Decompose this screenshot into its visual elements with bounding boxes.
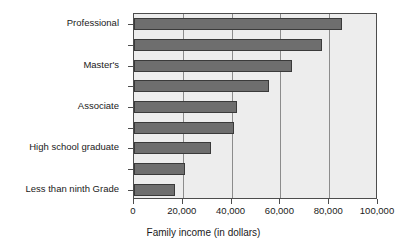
x-axis-tick <box>133 199 134 204</box>
x-axis-tick-label: 0 <box>130 206 135 216</box>
bar <box>134 163 185 175</box>
plot-area <box>133 13 377 199</box>
y-axis-tick <box>128 66 134 67</box>
y-axis-tick <box>128 86 134 87</box>
bar-chart: ProfessionalMaster'sAssociateHigh school… <box>0 0 407 249</box>
bar-row <box>134 159 378 180</box>
bar-row <box>134 55 378 76</box>
x-axis-tick-label: 20,000 <box>167 206 196 216</box>
y-axis-tick <box>128 24 134 25</box>
y-axis-labels: ProfessionalMaster'sAssociateHigh school… <box>0 13 127 199</box>
bar <box>134 39 322 51</box>
y-axis-tick <box>128 169 134 170</box>
x-axis-tick <box>328 199 329 204</box>
bar <box>134 80 269 92</box>
y-axis-tick <box>128 148 134 149</box>
y-axis-tick <box>128 128 134 129</box>
bar-row <box>134 35 378 56</box>
bar <box>134 18 342 30</box>
x-axis-tick-labels: 020,00040,00060,00080,000100,000 <box>133 206 377 220</box>
y-axis-label: Associate <box>78 101 119 111</box>
x-axis-title: Family income (in dollars) <box>0 228 407 238</box>
bar <box>134 60 292 72</box>
x-axis-tick <box>182 199 183 204</box>
x-axis-tick-label: 40,000 <box>216 206 245 216</box>
x-axis-tick-label: 80,000 <box>314 206 343 216</box>
bar <box>134 142 211 154</box>
x-axis-tick <box>377 199 378 204</box>
x-axis-tick-label: 100,000 <box>360 206 394 216</box>
y-axis-label: Master's <box>83 60 119 70</box>
bars <box>134 14 376 198</box>
y-axis-tick <box>128 107 134 108</box>
bar-row <box>134 117 378 138</box>
bar <box>134 184 175 196</box>
bar-row <box>134 179 378 200</box>
y-axis-label: Professional <box>67 19 119 29</box>
bar-row <box>134 97 378 118</box>
y-axis-label: Less than ninth Grade <box>26 184 119 194</box>
y-axis-tick <box>128 45 134 46</box>
bar <box>134 101 237 113</box>
bar <box>134 122 234 134</box>
y-axis-label: High school graduate <box>29 143 119 153</box>
bar-row <box>134 76 378 97</box>
bar-row <box>134 14 378 35</box>
bar-row <box>134 138 378 159</box>
x-axis-tick <box>279 199 280 204</box>
x-axis-tick-label: 60,000 <box>265 206 294 216</box>
x-axis-tick <box>231 199 232 204</box>
y-axis-tick <box>128 190 134 191</box>
